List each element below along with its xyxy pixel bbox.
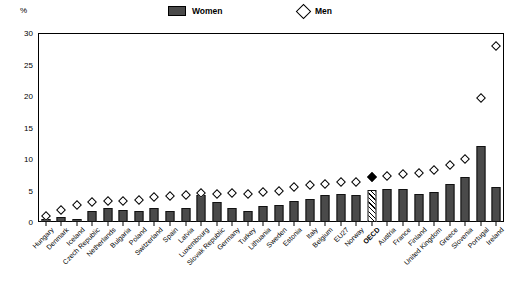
diamond-men (72, 200, 82, 210)
bar-women (492, 187, 501, 222)
diamond-men (56, 205, 66, 215)
y-axis-tick-label: 20 (24, 92, 33, 101)
y-axis-tick-label: 30 (24, 29, 33, 38)
chart-category-group (333, 33, 349, 222)
bar-women (119, 210, 128, 222)
chart-category-group (147, 33, 163, 222)
chart-category-group (364, 33, 380, 222)
chart-category-group (38, 33, 54, 222)
chart-category-group (302, 33, 318, 222)
bar-women (181, 208, 190, 222)
diamond-men (429, 165, 439, 175)
y-axis: 051015202530 (0, 33, 38, 222)
bar-women (228, 208, 237, 222)
bar-women (212, 202, 221, 222)
chart-category-group (162, 33, 178, 222)
chart-category-group (380, 33, 396, 222)
diamond-men (118, 196, 128, 206)
bar-women (274, 205, 283, 222)
diamond-men (212, 189, 222, 199)
diamond-men (476, 93, 486, 103)
chart-category-group (287, 33, 303, 222)
bar-women (305, 199, 314, 222)
diamond-men (414, 168, 424, 178)
bar-women (476, 146, 485, 222)
chart-category-group (255, 33, 271, 222)
diamond-men (305, 181, 315, 191)
y-axis-tick-label: 25 (24, 60, 33, 69)
bar-women (445, 184, 454, 222)
chart-category-group (426, 33, 442, 222)
legend-label-men: Men (315, 7, 332, 16)
chart-category-group (457, 33, 473, 222)
diamond-men (383, 171, 393, 181)
chart-category-group (442, 33, 458, 222)
diamond-men (134, 195, 144, 205)
diamond-men (227, 188, 237, 198)
x-axis-labels: HungaryDenmarkIcelandCzech RepublicNethe… (38, 226, 504, 282)
chart-category-group (116, 33, 132, 222)
legend-swatch-bar-icon (168, 6, 186, 16)
chart-category-group (411, 33, 427, 222)
bar-women (134, 211, 143, 222)
chart-category-group (395, 33, 411, 222)
bar-women (197, 195, 206, 222)
chart-category-group (240, 33, 256, 222)
y-axis-tick-label: 10 (24, 155, 33, 164)
bar-women (321, 195, 330, 222)
legend-item-women: Women (168, 6, 223, 16)
legend-swatch-diamond-icon (296, 4, 312, 20)
chart-category-group (488, 33, 504, 222)
bar-women (290, 201, 299, 222)
diamond-men (398, 169, 408, 179)
x-axis-tick-label: Spain (161, 226, 179, 244)
diamond-men (150, 192, 160, 202)
chart-category-group (69, 33, 85, 222)
chart-series-layer (38, 33, 504, 222)
bar-women (243, 211, 252, 222)
diamond-men (445, 160, 455, 170)
bar-women (399, 189, 408, 222)
y-axis-tick-label: 5 (29, 186, 33, 195)
bar-women (336, 194, 345, 222)
diamond-men (367, 172, 377, 182)
diamond-men (87, 197, 97, 207)
chart-category-group (318, 33, 334, 222)
diamond-men (491, 41, 501, 51)
y-axis-tick-label: 15 (24, 123, 33, 132)
chart-category-group (100, 33, 116, 222)
chart-category-group (473, 33, 489, 222)
diamond-men (243, 189, 253, 199)
bar-women (430, 192, 439, 222)
bar-women (414, 194, 423, 222)
legend-item-men: Men (298, 6, 332, 17)
bar-women (103, 208, 112, 222)
bar-women (259, 206, 268, 222)
chart-category-group (349, 33, 365, 222)
chart-category-group (131, 33, 147, 222)
diamond-men (460, 154, 470, 164)
chart-legend: Women Men (0, 0, 516, 22)
bar-women (383, 189, 392, 222)
chart-category-group (178, 33, 194, 222)
bar-women (150, 208, 159, 222)
chart-category-group (271, 33, 287, 222)
legend-label-women: Women (192, 7, 223, 16)
bar-women (461, 177, 470, 222)
bar-women (352, 195, 361, 222)
diamond-men (181, 190, 191, 200)
chart-category-group (209, 33, 225, 222)
chart-category-group (54, 33, 70, 222)
diamond-men (336, 177, 346, 187)
diamond-men (258, 187, 268, 197)
y-axis-unit-label: % (20, 6, 27, 15)
chart-category-group (224, 33, 240, 222)
bar-women (367, 190, 376, 222)
chart-category-group (193, 33, 209, 222)
diamond-men (351, 177, 361, 187)
bar-women (166, 211, 175, 222)
diamond-men (320, 179, 330, 189)
y-axis-tick-label: 0 (29, 218, 33, 227)
chart-category-group (85, 33, 101, 222)
diamond-men (165, 191, 175, 201)
